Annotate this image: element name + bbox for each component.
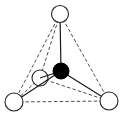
atom-bottom-right <box>100 92 118 110</box>
edge-back-bottom-right <box>40 78 109 101</box>
edge-top-bottom-right <box>60 14 109 101</box>
edge-top-bottom-left <box>14 14 60 102</box>
atom-bottom-left <box>5 93 23 111</box>
central-atom <box>53 63 69 79</box>
edge-bottom-left-bottom-right <box>14 101 109 102</box>
tetrahedral-molecule-diagram <box>0 0 127 118</box>
atom-top <box>52 6 69 23</box>
central-bonds <box>14 14 109 102</box>
tetrahedron-edges <box>14 14 109 102</box>
